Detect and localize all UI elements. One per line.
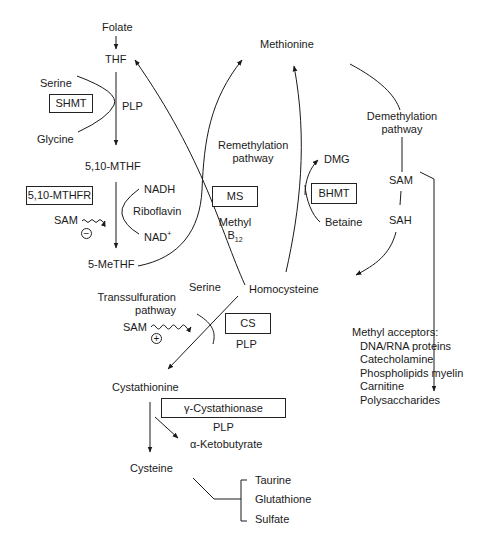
activation-plus-icon: + (151, 333, 162, 344)
methyl-acceptor-item: Catecholamine (352, 353, 463, 367)
enzyme-ms: MS (212, 186, 258, 207)
demethylation-line1: Demethylation (359, 110, 445, 123)
node-sam-right: SAM (389, 174, 413, 187)
enzyme-cs: CS (225, 313, 271, 334)
methyl-acceptor-item: DNA/RNA proteins (352, 340, 463, 354)
enzyme-shmt: SHMT (49, 94, 93, 113)
line-cysteine-products (193, 478, 241, 499)
curve-methionine-demethylation (350, 64, 400, 110)
line-sam-sah (400, 191, 401, 205)
node-sam-left: SAM (54, 214, 78, 227)
node-riboflavin: Riboflavin (133, 205, 181, 218)
b12-base: B (227, 229, 234, 241)
node-sam-cs: SAM (123, 321, 147, 334)
node-5-methf: 5-MeTHF (88, 258, 134, 271)
transsulfuration-line1: Transsulfuration (96, 291, 176, 304)
wavy-sam-mthfr (82, 220, 105, 223)
node-dmg: DMG (324, 153, 350, 166)
product-glutathione: Glutathione (255, 493, 311, 506)
node-sah: SAH (389, 214, 412, 227)
label-remethylation-pathway: Remethylation pathway (218, 139, 288, 165)
node-plp-cgl: PLP (213, 421, 234, 434)
node-nadh: NADH (144, 183, 175, 196)
node-alpha-ketobutyrate: α-Ketobutyrate (190, 438, 262, 451)
node-folate: Folate (102, 21, 133, 34)
node-plp-cs: PLP (236, 338, 257, 351)
curve-serine-cs (197, 314, 214, 344)
product-taurine: Taurine (255, 474, 291, 487)
node-cystathionine: Cystathionine (112, 381, 179, 394)
node-thf: THF (105, 53, 126, 66)
node-glycine: Glycine (37, 133, 74, 146)
node-510-mthf: 5,10-MTHF (85, 160, 141, 173)
methyl-acceptor-item: Polysaccharides (352, 394, 463, 408)
arrow-homocysteine-thf (135, 60, 245, 285)
node-plp-shmt: PLP (122, 100, 143, 113)
node-betaine: Betaine (325, 216, 362, 229)
methyl-text: Methyl (215, 216, 255, 229)
b12-text: B12 (215, 229, 255, 246)
remethylation-line2: pathway (218, 152, 288, 165)
product-sulfate: Sulfate (255, 513, 289, 526)
label-transsulfuration-pathway: Transsulfuration pathway (96, 291, 176, 317)
arrow-sah-homocysteine (356, 232, 396, 275)
bracket-cysteine-products (241, 480, 247, 521)
node-homocysteine: Homocysteine (249, 283, 319, 296)
node-serine-top: Serine (40, 77, 72, 90)
remethylation-line1: Remethylation (218, 139, 288, 152)
node-nad-plus: NAD+ (144, 227, 171, 244)
b12-subscript: 12 (235, 236, 243, 243)
methyl-acceptor-item: Carnitine (352, 380, 463, 394)
arrow-homocysteine-methionine-bhmt (286, 66, 301, 272)
nad-text: NAD (144, 231, 167, 243)
transsulfuration-line2: pathway (96, 304, 176, 317)
enzyme-cystathionase: γ-Cystathionase (161, 398, 286, 418)
node-cysteine: Cysteine (130, 462, 173, 475)
label-methyl-b12: Methyl B12 (215, 216, 255, 246)
methyl-acceptors-list: Methyl acceptors: DNA/RNA proteins Catec… (352, 326, 463, 407)
node-serine-mid: Serine (189, 281, 221, 294)
label-demethylation-pathway: Demethylation pathway (359, 110, 445, 136)
enzyme-bhmt: BHMT (311, 183, 357, 204)
nad-charge: + (167, 230, 171, 237)
arrow-ketobutyrate (155, 417, 178, 438)
methyl-acceptors-heading: Methyl acceptors: (352, 326, 438, 338)
methyl-acceptor-item: Phospholipids myelin (352, 367, 463, 381)
enzyme-mthfr: 5,10-MTHFR (26, 186, 93, 205)
pathway-connectors (0, 0, 479, 538)
demethylation-line2: pathway (359, 123, 445, 136)
node-methionine: Methionine (260, 38, 314, 51)
wavy-sam-cs (151, 325, 191, 329)
inhibition-minus-icon: − (81, 228, 92, 239)
